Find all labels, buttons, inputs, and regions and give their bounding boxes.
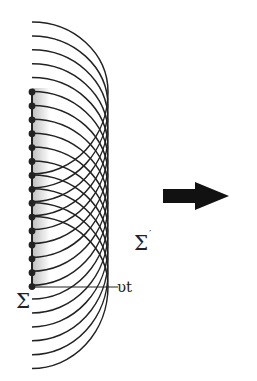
source-dot <box>29 200 36 207</box>
source-dot <box>29 242 36 249</box>
direction-arrow-icon <box>163 182 229 210</box>
source-dot <box>29 228 36 235</box>
source-dot <box>29 172 36 179</box>
sigma-label: Σ <box>16 291 30 311</box>
source-dot <box>29 214 36 221</box>
source-dot <box>29 158 36 165</box>
source-dot <box>29 144 36 151</box>
source-dot <box>29 186 36 193</box>
prime-mark: ′ <box>149 229 151 239</box>
vt-label: υt <box>117 280 132 295</box>
source-dot <box>29 103 36 110</box>
sigma-prime-label: Σ <box>134 233 148 253</box>
point-sources <box>29 89 36 290</box>
source-dot <box>29 130 36 137</box>
source-dot <box>29 89 36 96</box>
source-dot <box>29 269 36 276</box>
source-dot <box>29 255 36 262</box>
huygens-diagram <box>0 0 257 381</box>
source-dot <box>29 116 36 123</box>
